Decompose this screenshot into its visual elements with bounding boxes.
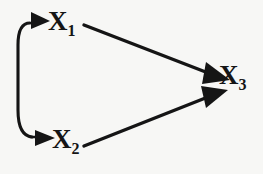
node-x1-base: X [48,6,68,36]
node-x3-subscript: 3 [239,76,247,93]
edge-x1-to-x3-line [84,25,216,76]
diagram-canvas: X1 X2 X3 [0,0,263,174]
node-label-x1: X1 [48,8,76,35]
node-x2-base: X [52,124,72,154]
edge-x1-x2-curve-path [18,23,32,137]
edge-x2-to-x3 [84,86,228,146]
node-label-x2: X2 [52,126,80,153]
node-x2-subscript: 2 [72,140,80,157]
edge-x1-to-x3 [84,25,230,84]
node-x1-subscript: 1 [68,22,76,39]
node-label-x3: X3 [219,62,247,89]
edge-x2-to-x3-line [84,95,213,146]
node-x3-base: X [219,60,239,90]
